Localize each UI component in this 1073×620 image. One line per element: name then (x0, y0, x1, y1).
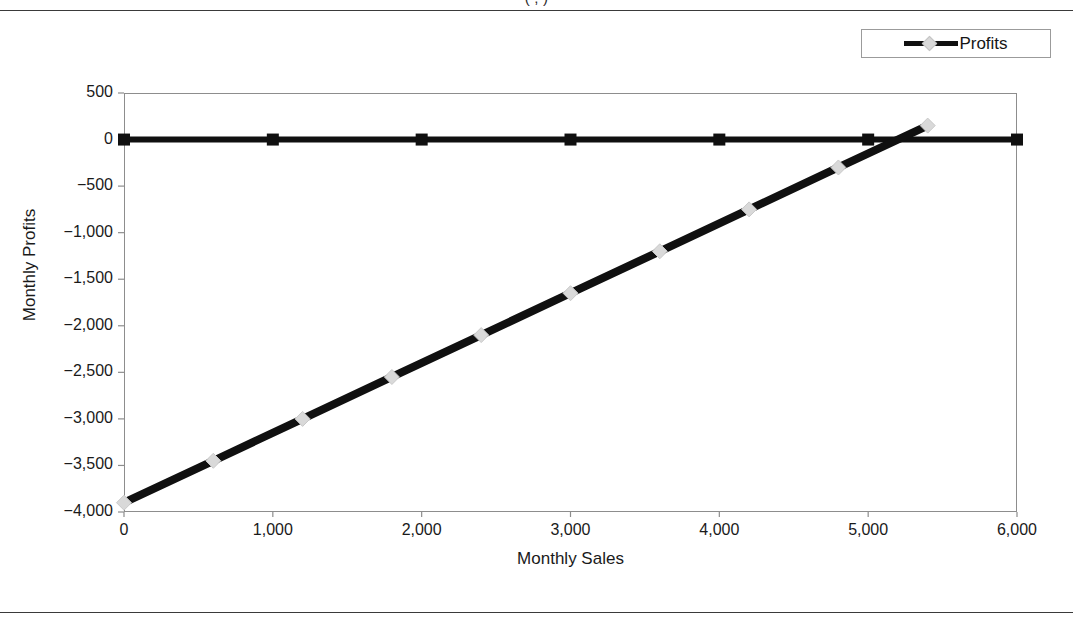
y-tick-label: 0 (23, 130, 113, 148)
y-tick-label: 500 (23, 83, 113, 101)
figure-page: ( , ) Profits Monthly Profits Monthly Sa… (0, 0, 1073, 620)
x-tick-label: 3,000 (526, 521, 616, 539)
x-tick-label: 4,000 (674, 521, 764, 539)
y-tick-label: −500 (23, 176, 113, 194)
x-tick-label: 2,000 (377, 521, 467, 539)
x-tick-label: 1,000 (228, 521, 318, 539)
chart-area: Monthly Profits Monthly Sales 5000−500−1… (0, 0, 1073, 620)
y-tick-label: −2,500 (23, 362, 113, 380)
x-tick-label: 6,000 (972, 521, 1062, 539)
y-tick-label: −3,500 (23, 455, 113, 473)
x-tick-label: 5,000 (823, 521, 913, 539)
y-tick-label: −1,000 (23, 223, 113, 241)
x-tick-label: 0 (79, 521, 169, 539)
y-tick-label: −1,500 (23, 269, 113, 287)
y-tick-label: −2,000 (23, 316, 113, 334)
y-axis-title: Monthly Profits (20, 165, 40, 365)
x-axis-title: Monthly Sales (124, 549, 1017, 569)
plot-frame (124, 93, 1017, 512)
y-tick-label: −4,000 (23, 502, 113, 520)
y-tick-label: −3,000 (23, 409, 113, 427)
